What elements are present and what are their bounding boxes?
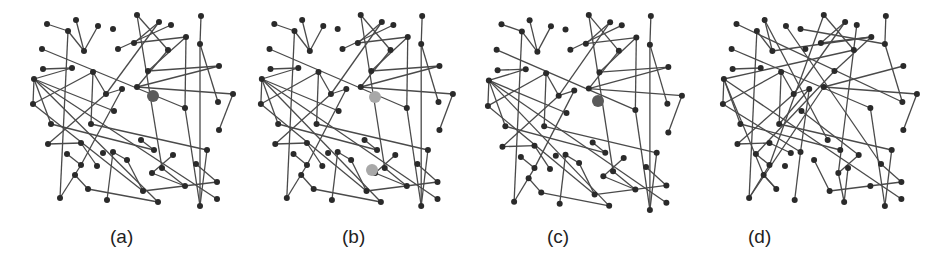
graph-node <box>156 19 162 25</box>
graph-node <box>134 12 140 18</box>
graph-canvas <box>0 0 932 262</box>
graph-node <box>134 84 140 90</box>
graph-node <box>31 76 37 82</box>
graph-node <box>541 123 547 129</box>
graph-edge <box>870 108 885 206</box>
graph-node <box>531 165 537 171</box>
graph-node <box>314 121 320 127</box>
graph-node <box>387 47 393 53</box>
graph-node <box>914 91 920 97</box>
graph-node <box>81 48 87 54</box>
panel-label-a: (a) <box>110 226 133 248</box>
graph-node <box>596 69 602 75</box>
graph-node <box>197 41 203 47</box>
graph-node <box>563 26 569 32</box>
graph-node <box>214 196 220 202</box>
graph-node <box>85 186 91 192</box>
graph-node <box>548 23 554 29</box>
graph-edge <box>33 104 143 191</box>
graph-edge <box>307 143 322 166</box>
graph-node <box>499 144 505 150</box>
graph-node <box>720 101 726 107</box>
graph-edge <box>127 160 143 191</box>
graph-node <box>567 47 573 53</box>
graph-edge <box>185 108 200 206</box>
graph-node <box>348 157 354 163</box>
graph-edge <box>60 31 68 198</box>
graph-node <box>419 13 425 19</box>
graph-node <box>343 86 349 92</box>
graph-node <box>110 26 116 32</box>
graph-node <box>382 165 388 171</box>
graph-edge <box>537 26 551 52</box>
graph-node <box>304 140 310 146</box>
graph-node <box>404 105 410 111</box>
graph-node <box>498 21 504 27</box>
graph-node <box>216 127 222 133</box>
graph-node <box>291 28 297 34</box>
graph-node <box>606 203 612 209</box>
graph-edge <box>488 80 489 106</box>
graph-edge <box>84 26 98 51</box>
graph-edge <box>534 146 550 169</box>
graph-node <box>335 26 341 32</box>
graph-node <box>315 69 321 75</box>
graph-node <box>39 46 45 52</box>
graph-node <box>792 197 798 203</box>
graph-edge <box>417 164 437 182</box>
graph-edge <box>502 146 534 147</box>
graph-node <box>523 66 529 72</box>
graph-node <box>841 199 847 205</box>
graph-node <box>798 26 804 32</box>
graph-node <box>267 66 273 72</box>
graph-node <box>607 19 613 25</box>
graph-node <box>379 19 385 25</box>
graph-node <box>531 143 537 149</box>
graph-node <box>788 150 794 156</box>
graph-node <box>124 157 130 163</box>
graph-node <box>835 170 841 176</box>
graph-edge <box>795 152 801 200</box>
graph-edge <box>421 16 422 44</box>
graph-node <box>72 172 78 178</box>
graph-edge <box>885 16 886 44</box>
graph-node <box>851 47 857 53</box>
graph-node <box>374 147 380 153</box>
graph-node <box>563 152 569 158</box>
graph-node <box>368 68 374 74</box>
graph-edge <box>148 37 186 71</box>
graph-node <box>586 86 592 92</box>
graph-edge <box>34 79 114 111</box>
graph-edge <box>488 106 595 195</box>
graph-node <box>590 140 596 146</box>
graph-node <box>216 63 222 69</box>
graph-node <box>898 196 904 202</box>
graph-node <box>782 163 788 169</box>
graph-node <box>435 99 441 105</box>
graph-node <box>563 110 569 116</box>
graph-node <box>390 22 396 28</box>
graph-node <box>762 17 768 23</box>
graph-edge <box>261 79 262 104</box>
graph-node <box>557 201 563 207</box>
graph-node <box>882 203 888 209</box>
graph-node <box>576 160 582 166</box>
graph-node <box>730 66 736 72</box>
graph-node <box>90 69 96 75</box>
graph-node <box>518 154 524 160</box>
graph-node <box>753 151 759 157</box>
graph-node <box>754 28 760 34</box>
graph-node <box>647 207 653 213</box>
graph-node <box>362 137 368 143</box>
graph-node <box>485 103 491 109</box>
graph-edge <box>801 111 858 155</box>
graph-node <box>40 66 46 72</box>
graph-node <box>295 65 301 71</box>
graph-node <box>527 17 533 23</box>
graph-edge <box>736 24 902 102</box>
graph-node <box>900 127 906 133</box>
graph-edge <box>118 25 171 49</box>
graph-node <box>665 64 671 70</box>
graph-edge <box>371 37 407 71</box>
graph-node <box>259 76 265 82</box>
